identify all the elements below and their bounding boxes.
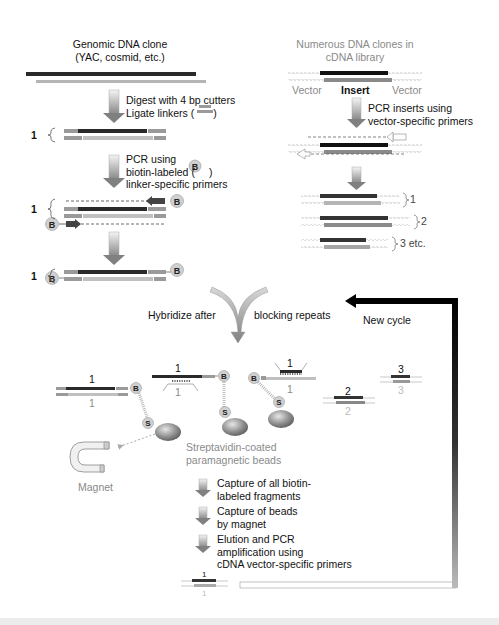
magnet-attraction-arrow: [121, 434, 155, 446]
product-label: 1: [410, 193, 416, 206]
pcr-primer-duplex: B B: [46, 195, 184, 231]
vector-left-label: Vector: [292, 84, 322, 97]
svg-text:S: S: [222, 408, 228, 417]
diagram-canvas: B B B B B: [0, 0, 499, 625]
fragment-label: 1: [31, 129, 37, 142]
down-arrow-icon: [347, 98, 366, 128]
pcr-biotin-step-text: PCR using biotin-labeled () linker-speci…: [126, 153, 228, 191]
step-line: cDNA vector-specific primers: [217, 558, 352, 571]
paren-close: ): [209, 166, 213, 178]
product-label: 3 etc.: [400, 237, 426, 250]
step-line: by magnet: [217, 518, 298, 531]
pcr-vector-step-text: PCR inserts using vector-specific primer…: [368, 102, 473, 127]
title-line: (YAC, cosmid, etc.): [60, 51, 180, 64]
magnet-icon: [70, 442, 109, 472]
insert-label: Insert: [341, 84, 370, 97]
hybrid-label-bottom: 1: [175, 386, 181, 399]
hybrid-unbound-3: [380, 375, 422, 383]
svg-text:B: B: [174, 197, 181, 207]
beads-label: Streptavidin-coated paramagnetic beads: [186, 441, 281, 466]
pcr-products: [301, 194, 410, 249]
down-arrow-icon: [195, 507, 211, 525]
svg-text:B: B: [133, 384, 139, 393]
svg-text:S: S: [145, 419, 151, 428]
fragment-label: 1: [31, 270, 37, 283]
hybrid-label-bottom: 1: [89, 397, 95, 410]
step-line: labeled fragments: [217, 490, 311, 503]
final-label-top: 1: [202, 570, 206, 579]
capture-step-3: Elution and PCR amplification using cDNA…: [217, 533, 352, 571]
svg-text:B: B: [49, 220, 56, 230]
svg-text:B: B: [174, 266, 181, 276]
capture-step-2: Capture of beads by magnet: [217, 505, 298, 530]
hybrid-3-biotin-fragment: B S: [249, 363, 317, 428]
final-product-duplex: [181, 579, 228, 587]
step-line: Capture of beads: [217, 505, 298, 518]
hybridize-right-text: blocking repeats: [254, 309, 330, 322]
fragment-label: 1: [31, 203, 37, 216]
title-line: cDNA library: [285, 51, 425, 64]
svg-text:B: B: [221, 372, 227, 381]
magnet-label: Magnet: [78, 481, 113, 494]
step-line: amplification using: [217, 546, 352, 559]
step-line: biotin-labeled (: [126, 166, 195, 178]
svg-text:B: B: [251, 374, 257, 383]
step-line: Capture of all biotin-: [217, 477, 311, 490]
digest-step-text: Digest with 4 bp cutters Ligate linkers …: [126, 94, 235, 119]
down-arrow-icon: [347, 167, 366, 190]
paren-close: ): [213, 107, 217, 119]
bead-icon: [268, 410, 294, 428]
bead-icon: [155, 423, 181, 441]
title-line: Numerous DNA clones in: [285, 38, 425, 51]
down-arrow-icon: [103, 155, 125, 188]
hybrid-label-bottom: 1: [287, 383, 293, 396]
fragment-with-linkers: [64, 129, 166, 140]
bracket-icon: [48, 128, 55, 283]
bottom-strip: [0, 618, 499, 625]
label-line: paramagnetic beads: [186, 454, 281, 467]
genomic-clone-duplex: [26, 72, 206, 83]
final-label-bottom: 1: [202, 589, 206, 598]
hybrid-label-top: 1: [175, 362, 181, 375]
genomic-clone-title: Genomic DNA clone (YAC, cosmid, etc.): [60, 38, 180, 63]
title-line: Genomic DNA clone: [60, 38, 180, 51]
step-line: PCR inserts using: [368, 102, 473, 115]
pcr-vector-duplex: [288, 132, 422, 159]
hybrid-1-biotin-fragment: B S: [56, 383, 181, 442]
hybrid-label-top: 1: [89, 373, 95, 386]
svg-text:S: S: [276, 398, 282, 407]
hybrid-label-top: 2: [345, 385, 351, 398]
hybrid-label-bottom: 3: [398, 384, 404, 397]
bead-icon: [222, 418, 248, 436]
capture-step-1: Capture of all biotin- labeled fragments: [217, 477, 311, 502]
hybrid-label-top: 3: [398, 363, 404, 376]
step-line: Elution and PCR: [217, 533, 352, 546]
down-arrow-icon: [195, 479, 211, 497]
biotinylated-fragment: B B: [46, 264, 184, 285]
step-line: vector-specific primers: [368, 115, 473, 128]
cdna-clone-duplex: [288, 71, 422, 82]
label-line: Streptavidin-coated: [186, 441, 281, 454]
step-line: PCR using: [126, 153, 228, 166]
hybrid-label-bottom: 2: [345, 405, 351, 418]
down-arrow-icon: [103, 232, 125, 265]
step-line: linker-specific primers: [126, 178, 228, 191]
step-line: Ligate linkers (: [126, 107, 194, 119]
hybridize-left-text: Hybridize after: [148, 309, 216, 322]
vector-right-label: Vector: [392, 84, 422, 97]
new-cycle-label: New cycle: [363, 314, 411, 327]
product-label: 2: [421, 215, 427, 228]
hybrid-label-top: 1: [287, 357, 293, 370]
step-line: Digest with 4 bp cutters: [126, 94, 235, 107]
down-arrow-icon: [103, 90, 125, 123]
cdna-library-title: Numerous DNA clones in cDNA library: [285, 38, 425, 63]
down-arrow-icon: [195, 535, 211, 553]
